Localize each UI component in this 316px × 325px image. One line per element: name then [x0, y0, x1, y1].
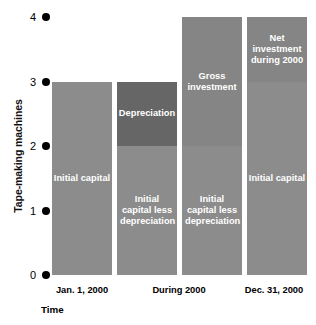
bar-during-2000-gross-investment[interactable]: Initial capital less depreciation Gross … [182, 17, 242, 275]
bar-segment-label: Initial capital less depreciation [119, 194, 175, 227]
y-axis-tick-label: 3 [30, 77, 36, 88]
plot-area: Initial capital Initial capital less dep… [52, 17, 313, 275]
bar-segment-initial-capital-less-depreciation[interactable]: Initial capital less depreciation [182, 146, 242, 275]
y-axis-tick-label: 2 [30, 141, 36, 152]
bar-segment-label: Depreciation [118, 108, 176, 119]
y-axis-tick-dot-icon [42, 78, 50, 86]
x-axis-title: Time [41, 305, 64, 315]
bar-segment-label: Net investment during 2000 [247, 33, 307, 66]
bar-segment-label: Initial capital [248, 173, 306, 184]
bar-segment-label: Gross investment [183, 71, 241, 93]
y-axis-tick-label: 4 [30, 12, 36, 23]
y-axis-tick-0: 0 [26, 268, 50, 282]
y-axis-tick-dot-icon [42, 142, 50, 150]
y-axis-title: Tape-making machines [12, 86, 24, 226]
bar-dec-31-2000[interactable]: Initial capital Net investment during 20… [247, 17, 307, 275]
y-axis-tick-dot-icon [42, 13, 50, 21]
y-axis-tick-dot-icon [42, 207, 50, 215]
y-axis-tick-label: 0 [30, 270, 36, 281]
x-axis-label-jan-1-2000: Jan. 1, 2000 [42, 286, 122, 295]
bar-during-2000-depreciation[interactable]: Initial capital less depreciation Deprec… [117, 82, 177, 276]
y-axis-tick-4: 4 [26, 10, 50, 24]
y-axis-tick-1: 1 [26, 204, 50, 218]
y-axis-tick-2: 2 [26, 139, 50, 153]
x-axis-label-dec-31-2000: Dec. 31, 2000 [232, 286, 316, 295]
bar-segment-initial-capital-less-depreciation[interactable]: Initial capital less depreciation [117, 146, 177, 275]
bar-segment-initial-capital[interactable]: Initial capital [247, 82, 307, 276]
bar-segment-label: Initial capital [53, 173, 111, 184]
bar-segment-initial-capital[interactable]: Initial capital [52, 82, 112, 276]
y-axis-tick-3: 3 [26, 75, 50, 89]
bar-segment-label: Initial capital less depreciation [184, 194, 240, 227]
bar-segment-gross-investment[interactable]: Gross investment [182, 17, 242, 146]
y-axis-tick-dot-icon [42, 271, 50, 279]
bar-segment-depreciation[interactable]: Depreciation [117, 82, 177, 147]
bar-segment-net-investment[interactable]: Net investment during 2000 [247, 17, 307, 82]
y-axis-tick-label: 1 [30, 206, 36, 217]
x-axis-label-during-2000: During 2000 [137, 286, 221, 295]
chart-container: Tape-making machines 4 3 2 1 0 Initial c… [0, 0, 316, 325]
bar-jan-1-2000[interactable]: Initial capital [52, 82, 112, 276]
